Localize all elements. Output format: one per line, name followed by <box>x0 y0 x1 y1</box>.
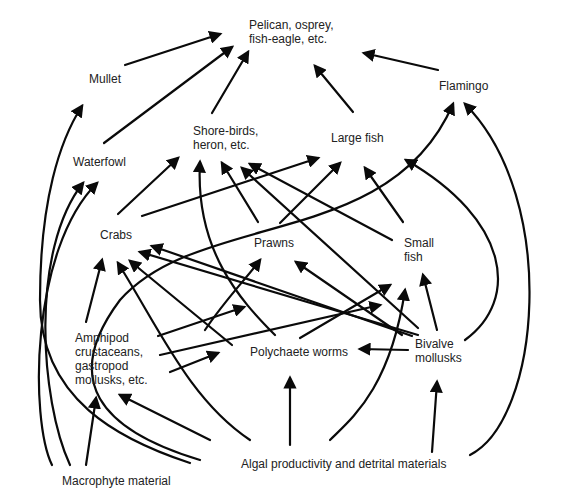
node-amphipod-gastropod: Amphipod crustaceans, gastropod mollusks… <box>75 331 148 387</box>
node-small-fish: Small fish <box>404 236 434 264</box>
arrow-largefish-to-pelican <box>315 66 353 112</box>
arrow-macrophyte-to-waterfowl-2 <box>39 183 97 465</box>
node-flamingo: Flamingo <box>439 79 488 93</box>
arrow-amphipod-to-crabs <box>86 260 102 322</box>
arrow-bivalve-to-smallfish <box>423 275 437 330</box>
node-shore-birds-heron: Shore-birds, heron, etc. <box>193 124 258 152</box>
arrow-polychaete-to-smallfish <box>300 285 390 338</box>
node-polychaete-worms: Polychaete worms <box>250 345 348 359</box>
node-crabs: Crabs <box>100 228 132 242</box>
node-prawns: Prawns <box>254 236 294 250</box>
node-large-fish: Large fish <box>331 131 384 145</box>
node-waterfowl: Waterfowl <box>73 155 126 169</box>
arrow-macrophyte-to-waterfowl <box>45 183 83 465</box>
node-pelican-osprey-fish-eagle: Pelican, osprey, fish-eagle, etc. <box>249 18 334 46</box>
arrow-algal-to-flamingo-2 <box>92 104 453 460</box>
node-algal-productivity-detrital: Algal productivity and detrital material… <box>241 457 446 471</box>
arrow-bivalve-to-polychaete <box>360 349 408 350</box>
arrow-flamingo-to-pelican <box>364 53 438 70</box>
arrow-amphipod-to-prawns <box>158 307 244 336</box>
node-macrophyte-material: Macrophyte material <box>62 474 171 488</box>
arrow-mullet-to-pelican <box>125 34 220 65</box>
arrow-polychaete-to-prawns <box>205 260 260 330</box>
arrow-prawns-to-shorebirds <box>222 163 258 222</box>
food-web-arrows <box>0 0 563 500</box>
arrow-algal-to-amphipod <box>120 395 210 440</box>
food-web-diagram: Pelican, osprey, fish-eagle, etc. Mullet… <box>0 0 563 500</box>
arrow-shorebirds-to-pelican <box>212 52 248 113</box>
arrow-algal-to-bivalve <box>432 382 437 452</box>
arrow-prawns-to-largefish <box>280 163 340 223</box>
arrow-crabs-to-shorebirds <box>118 158 178 214</box>
node-bivalve-mollusks: Bivalve mollusks <box>415 337 462 365</box>
node-mullet: Mullet <box>89 72 121 86</box>
